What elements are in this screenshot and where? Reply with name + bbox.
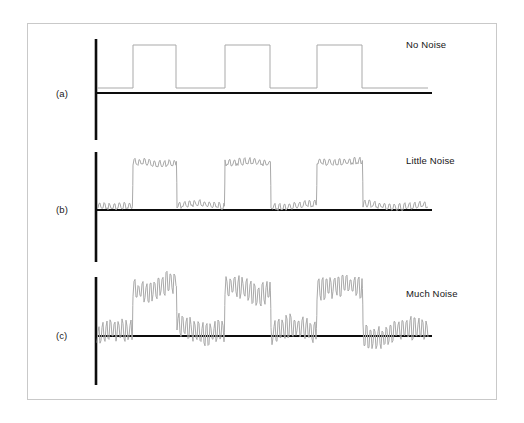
series-label-little-noise: Little Noise: [406, 155, 455, 166]
figure-root: (a) (b) (c) No Noise Little Noise Much N…: [0, 0, 524, 423]
panel-label-c: (c): [56, 330, 67, 341]
signal-trace-panel-b: [97, 157, 428, 210]
waveform-plot-svg: [0, 0, 524, 423]
signal-trace-panel-a: [97, 45, 428, 88]
signal-traces-group: [97, 45, 428, 349]
series-label-no-noise: No Noise: [406, 39, 446, 50]
panel-label-a: (a): [56, 88, 68, 99]
series-label-much-noise: Much Noise: [406, 288, 458, 299]
panel-label-b: (b): [56, 204, 68, 215]
